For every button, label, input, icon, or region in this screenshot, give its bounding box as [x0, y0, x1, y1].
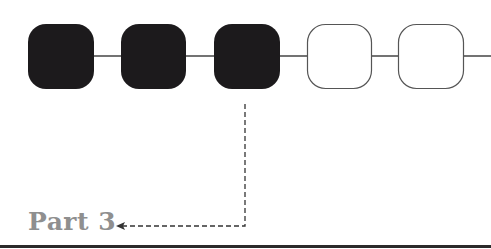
step-3-completed [214, 24, 280, 89]
callout-dashed-line [122, 104, 245, 226]
step-2-completed [121, 24, 186, 89]
step-4-pending [308, 25, 372, 89]
callout-label: Part 3 [28, 207, 116, 237]
step-5-pending [399, 25, 464, 89]
step-1-completed [28, 24, 94, 89]
progress-diagram: Part 3 [0, 0, 491, 249]
bottom-rule [0, 245, 491, 248]
